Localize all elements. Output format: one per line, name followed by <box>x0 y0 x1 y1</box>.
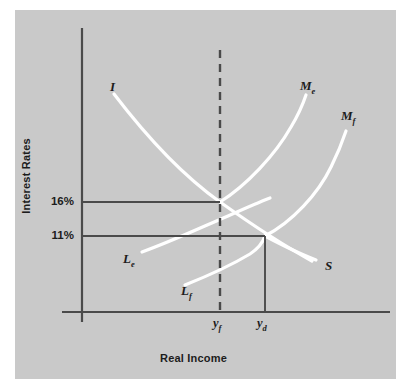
curve-liquidity-fullemployment <box>185 236 265 285</box>
x-axis-title: Real Income <box>160 352 227 364</box>
guideline-group <box>82 202 265 312</box>
figure-container: Interest Rates Real Income 16% 11% yf yd… <box>0 0 417 388</box>
curve-label-liquidity-fullemployment: Lf <box>181 283 192 301</box>
curve-label-savings: S <box>325 258 332 276</box>
curve-label-liquidity-equilibrium: Le <box>123 251 135 269</box>
curve-label-s-base: S <box>325 258 332 273</box>
y-axis-title: Interest Rates <box>20 126 32 226</box>
y-tick-label-11pct: 11% <box>38 229 74 241</box>
curve-label-lf-sub: f <box>189 291 192 301</box>
curve-label-me-sub: e <box>312 86 316 96</box>
x-tick-yd-sub: d <box>263 323 267 333</box>
axis-group <box>62 28 390 322</box>
curve-label-investment-base: I <box>110 79 115 94</box>
curve-group <box>114 94 346 285</box>
chart-canvas <box>0 0 417 388</box>
curve-label-money-equilibrium: Me <box>300 78 315 96</box>
y-tick-label-16pct: 16% <box>38 195 74 207</box>
curve-label-investment: I <box>110 79 115 97</box>
curve-label-money-fullemployment: Mf <box>341 108 355 126</box>
curve-label-me-base: M <box>300 78 312 93</box>
curve-money-equilibrium <box>220 95 306 202</box>
x-tick-label-yf: yf <box>213 316 221 333</box>
x-tick-yf-sub: f <box>219 323 222 333</box>
curve-label-mf-base: M <box>341 108 353 123</box>
curve-label-le-sub: e <box>131 259 135 269</box>
curve-label-mf-sub: f <box>353 116 356 126</box>
curve-label-lf-base: L <box>181 283 189 298</box>
x-tick-label-yd: yd <box>257 316 267 333</box>
curve-savings <box>265 236 316 260</box>
curve-label-le-base: L <box>123 251 131 266</box>
